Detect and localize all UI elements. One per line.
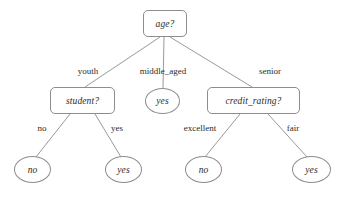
tree-node-label-left_yes: yes — [117, 165, 129, 175]
tree-node-label-left_no: no — [28, 165, 38, 175]
edge-label-e-youth: youth — [78, 66, 99, 76]
edge-label-e-no-left: no — [38, 123, 47, 133]
edge-label-e-senior: senior — [259, 66, 281, 76]
decision-tree-diagram: age?student?yescredit_rating?noyesnoyes … — [0, 0, 345, 197]
tree-edge-e-middle — [163, 37, 164, 88]
tree-node-student: student? — [50, 87, 115, 114]
tree-node-left_yes: yes — [105, 156, 142, 183]
tree-node-label-student: student? — [66, 96, 99, 106]
tree-edge-e-no-left — [36, 114, 70, 157]
tree-node-label-right_no: no — [199, 165, 209, 175]
tree-node-label-root: age? — [156, 19, 175, 29]
tree-node-right_no: no — [185, 156, 222, 183]
tree-node-label-mid_yes: yes — [156, 96, 168, 106]
tree-edge-e-excellent — [205, 114, 240, 157]
tree-edge-e-fair — [268, 114, 307, 157]
tree-edge-e-youth — [85, 37, 160, 87]
tree-node-root: age? — [143, 10, 187, 37]
edge-label-e-fair: fair — [287, 123, 300, 133]
tree-edge-e-senior — [170, 37, 252, 87]
tree-edge-e-yes-left — [95, 114, 121, 157]
edge-label-e-yes-left: yes — [111, 123, 123, 133]
tree-node-right_yes: yes — [292, 156, 331, 183]
edge-label-e-middle: middle_aged — [140, 66, 187, 76]
tree-node-mid_yes: yes — [145, 88, 180, 114]
edge-label-e-excellent: excellent — [184, 123, 216, 133]
tree-node-credit: credit_rating? — [207, 87, 300, 114]
tree-node-label-credit: credit_rating? — [226, 96, 282, 106]
tree-node-label-right_yes: yes — [305, 165, 317, 175]
tree-node-left_no: no — [14, 156, 51, 183]
